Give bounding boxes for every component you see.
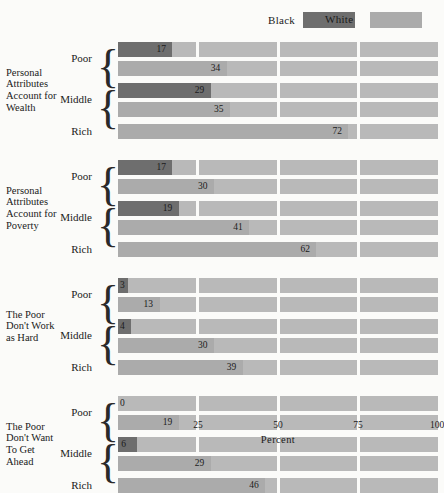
group-title: PersonalAttributesAccount forPoverty	[6, 185, 102, 231]
bar-value-label: 17	[156, 43, 166, 56]
bar-white-poor	[118, 297, 160, 312]
group-title-line: Don't Want	[6, 432, 102, 444]
bar-track-segment	[360, 102, 438, 117]
bar-track-segment	[280, 160, 358, 175]
bar-value-label: 13	[144, 298, 154, 311]
group-title-line: Wealth	[6, 102, 102, 114]
group-title-line: Account for	[6, 208, 102, 220]
bar-row: 30	[118, 179, 438, 194]
category-label-rich: Rich	[0, 126, 92, 137]
bar-value-label: 46	[249, 479, 259, 492]
bar-track-segment	[360, 124, 438, 139]
category-label-rich: Rich	[0, 362, 92, 373]
x-tick-100: 100	[430, 420, 444, 430]
bar-track-segment	[199, 160, 277, 175]
bar-row: 0	[118, 396, 438, 411]
bar-value-label: 17	[156, 161, 166, 174]
bar-track-segment	[360, 201, 438, 216]
bar-row: 17	[118, 42, 438, 57]
bar-track-segment	[199, 396, 277, 411]
bar-track-segment	[280, 102, 358, 117]
bar-value-label: 29	[195, 457, 205, 470]
bar-value-label: 4	[120, 320, 125, 333]
bar-row: 39	[118, 360, 438, 375]
bar-track-segment	[280, 278, 358, 293]
bar-value-label: 41	[233, 221, 243, 234]
bar-value-label: 0	[120, 397, 125, 410]
group-title-line: To Get	[6, 444, 102, 456]
bar-row: 4	[118, 319, 438, 334]
bar-track-segment	[280, 220, 358, 235]
category-label-rich: Rich	[0, 244, 92, 255]
bar-value-label: 62	[300, 243, 310, 256]
bar-row: 17	[118, 160, 438, 175]
chart-plot-area: 1734Poor{2935Middle{72RichPersonalAttrib…	[0, 36, 438, 416]
bar-row: 35	[118, 102, 438, 117]
legend-swatch-white-icon	[370, 12, 422, 28]
group-title: The PoorDon't Workas Hard	[6, 309, 102, 344]
bar-track-segment	[360, 478, 438, 493]
bar-track-background	[118, 396, 438, 411]
bar-track-segment	[199, 201, 277, 216]
bar-track-segment	[360, 220, 438, 235]
bar-track-segment	[199, 319, 277, 334]
bar-track-segment	[280, 83, 358, 98]
bar-track-segment	[118, 396, 196, 411]
bar-track-background	[118, 278, 438, 293]
bar-value-label: 30	[198, 339, 208, 352]
group-title-line: Poverty	[6, 220, 102, 232]
bar-track-background	[118, 297, 438, 312]
legend-item-white: White	[370, 12, 422, 28]
bar-value-label: 3	[120, 279, 125, 292]
x-axis-title: Percent	[118, 434, 438, 445]
bar-value-label: 29	[195, 84, 205, 97]
bar-track-segment	[360, 83, 438, 98]
group-title-line: Attributes	[6, 196, 102, 208]
bar-track-segment	[199, 42, 277, 57]
bar-track-segment	[280, 338, 358, 353]
category-label-rich: Rich	[0, 480, 92, 491]
category-label-poor: Poor	[0, 289, 92, 300]
bar-track-segment	[360, 278, 438, 293]
bar-row: 41	[118, 220, 438, 235]
x-axis: 25 50 75 100 Percent	[118, 420, 438, 450]
group-title-line: as Hard	[6, 332, 102, 344]
group-title-line: Account for	[6, 90, 102, 102]
group-title-line: The Poor	[6, 421, 102, 433]
category-label-poor: Poor	[0, 407, 92, 418]
group-title-line: Don't Work	[6, 320, 102, 332]
bar-row: 29	[118, 83, 438, 98]
bar-white-rich	[118, 360, 243, 375]
bar-track-segment	[360, 338, 438, 353]
group-title-line: Ahead	[6, 456, 102, 468]
bar-track-segment	[280, 478, 358, 493]
bar-track-segment	[360, 456, 438, 471]
bar-track-segment	[199, 278, 277, 293]
bar-track-segment	[360, 160, 438, 175]
bar-white-middle	[118, 220, 249, 235]
group-title-line: Attributes	[6, 78, 102, 90]
bar-track-segment	[280, 456, 358, 471]
bar-track-segment	[360, 319, 438, 334]
bar-row: 3	[118, 278, 438, 293]
bar-value-label: 39	[227, 361, 237, 374]
bar-row: 72	[118, 124, 438, 139]
bar-track-segment	[280, 61, 358, 76]
bar-row: 34	[118, 61, 438, 76]
bar-track-segment	[280, 319, 358, 334]
bar-track-segment	[360, 61, 438, 76]
bar-track-segment	[360, 360, 438, 375]
x-tick-50: 50	[273, 420, 283, 430]
group-title: PersonalAttributesAccount forWealth	[6, 67, 102, 113]
bar-track-segment	[118, 278, 196, 293]
bar-track-segment	[360, 242, 438, 257]
x-tick-75: 75	[353, 420, 363, 430]
bar-row: 29	[118, 456, 438, 471]
bar-track-segment	[280, 179, 358, 194]
bar-row: 46	[118, 478, 438, 493]
bar-row: 13	[118, 297, 438, 312]
category-label-poor: Poor	[0, 53, 92, 64]
bar-row: 62	[118, 242, 438, 257]
bar-track-segment	[360, 396, 438, 411]
group-title-line: Personal	[6, 185, 102, 197]
